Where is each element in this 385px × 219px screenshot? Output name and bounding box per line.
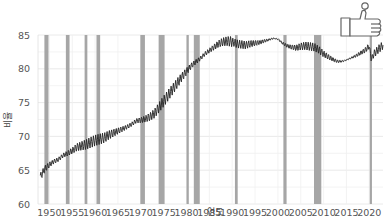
data-line bbox=[40, 37, 383, 178]
x-tick-label: 2020 bbox=[357, 207, 381, 218]
x-tick-label: 1990 bbox=[220, 207, 244, 218]
recession-band bbox=[187, 35, 189, 204]
x-tick-label: 2000 bbox=[266, 207, 290, 218]
y-tick-label: 65 bbox=[18, 165, 30, 176]
recession-band bbox=[283, 35, 286, 204]
thumbs-up-icon bbox=[338, 1, 384, 41]
line-chart: 606570758085 195019551960196519701975198… bbox=[0, 0, 385, 219]
recession-band bbox=[235, 35, 238, 204]
y-axis-label: 비율 bbox=[3, 112, 13, 128]
y-tick-label: 60 bbox=[18, 199, 30, 210]
x-tick-label: 2015 bbox=[334, 207, 358, 218]
y-tick-label: 75 bbox=[18, 97, 30, 108]
x-tick-label: 2005 bbox=[289, 207, 313, 218]
x-tick-label: 2010 bbox=[312, 207, 336, 218]
x-tick-label: 1965 bbox=[106, 207, 130, 218]
x-tick-label: 1950 bbox=[37, 207, 61, 218]
x-tick-label: 1975 bbox=[152, 207, 176, 218]
x-axis-label: 연도 bbox=[207, 207, 223, 217]
recession-band bbox=[314, 35, 321, 204]
recession-band bbox=[85, 35, 88, 204]
x-tick-label: 1960 bbox=[83, 207, 107, 218]
y-tick-label: 80 bbox=[18, 63, 30, 74]
x-tick-label: 1995 bbox=[243, 207, 267, 218]
x-tick-label: 1980 bbox=[174, 207, 198, 218]
x-tick-label: 1955 bbox=[60, 207, 84, 218]
recession-band bbox=[159, 35, 165, 204]
y-tick-label: 70 bbox=[18, 131, 30, 142]
y-tick-label: 85 bbox=[18, 30, 30, 41]
x-tick-label: 1970 bbox=[129, 207, 153, 218]
recession-band bbox=[96, 35, 100, 204]
y-axis-ticks: 606570758085 bbox=[18, 30, 30, 210]
recession-band bbox=[44, 35, 48, 204]
recession-band bbox=[66, 35, 70, 204]
